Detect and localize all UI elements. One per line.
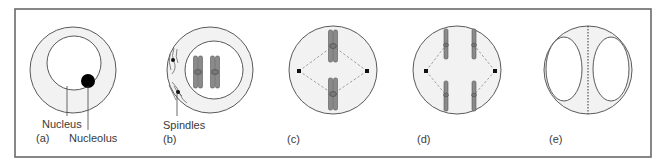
nucleus-label: Nucleus bbox=[42, 118, 82, 130]
panel-label-b: (b) bbox=[163, 133, 176, 145]
panel-label-c: (c) bbox=[287, 133, 300, 145]
cell-membrane bbox=[289, 26, 377, 114]
spindle-pole-left bbox=[297, 69, 301, 73]
nucleolus-label: Nucleolus bbox=[69, 132, 118, 144]
panel-a: Nucleus (a) Nucleolus bbox=[30, 27, 118, 144]
cell-division-figure: Nucleus (a) Nucleolus Spindles (b) bbox=[0, 0, 671, 166]
daughter-nucleus-right bbox=[593, 37, 629, 101]
panel-b: Spindles (b) bbox=[163, 27, 253, 145]
centrosome bbox=[176, 90, 180, 94]
spindle-pole-right bbox=[493, 69, 497, 73]
spindles-label: Spindles bbox=[163, 119, 206, 131]
panel-label-a: (a) bbox=[36, 132, 49, 144]
panel-e: (e) bbox=[544, 26, 632, 145]
centrosome bbox=[171, 58, 175, 62]
nucleolus bbox=[81, 74, 95, 88]
panel-c: (c) bbox=[287, 26, 377, 145]
panel-label-d: (d) bbox=[417, 133, 430, 145]
spindle-pole-left bbox=[424, 69, 428, 73]
panel-label-e: (e) bbox=[549, 133, 562, 145]
panel-d: (d) bbox=[413, 26, 501, 145]
spindle-pole-right bbox=[365, 69, 369, 73]
daughter-nucleus-left bbox=[546, 37, 582, 101]
